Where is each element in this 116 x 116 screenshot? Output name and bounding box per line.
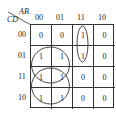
- group-circle-upper: [32, 47, 70, 83]
- group-loops: [0, 0, 116, 116]
- group-circle-lower: [32, 68, 70, 104]
- group-ellipse-ab11: [77, 26, 88, 62]
